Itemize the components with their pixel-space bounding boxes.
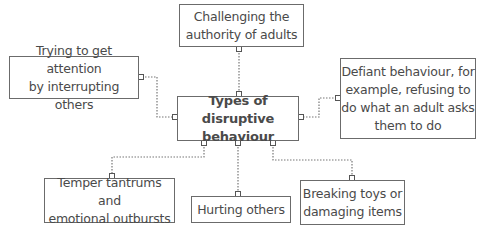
- connector-breaking: [273, 144, 352, 176]
- node-label: Hurting others: [197, 201, 285, 219]
- node-label: Breaking toys or damaging items: [303, 185, 402, 221]
- connector-temper: [112, 144, 204, 174]
- port-center-right: [299, 115, 304, 120]
- connector-right: [303, 98, 336, 117]
- port-top-out: [237, 47, 242, 52]
- node-label: Defiant behaviour, for example, refusing…: [341, 63, 474, 135]
- node-hurting-others: Hurting others: [191, 196, 291, 223]
- center-node-types-of-disruptive-behaviour: Types of disruptive behaviour: [177, 96, 299, 141]
- node-challenging-authority: Challenging the authority of adults: [179, 4, 304, 47]
- node-temper-tantrums: Temper tantrums and emotional outbursts: [44, 178, 175, 223]
- port-left-out: [139, 75, 144, 80]
- node-label: Challenging the authority of adults: [186, 8, 298, 44]
- center-label: Types of disruptive behaviour: [178, 92, 298, 146]
- node-breaking-toys: Breaking toys or damaging items: [300, 180, 405, 225]
- node-defiant-behaviour: Defiant behaviour, for example, refusing…: [340, 58, 476, 139]
- connector-left: [142, 77, 173, 117]
- node-label: Trying to get attention by interrupting …: [10, 42, 138, 114]
- node-label: Temper tantrums and emotional outbursts: [45, 174, 174, 228]
- node-attention-interrupting: Trying to get attention by interrupting …: [9, 56, 139, 99]
